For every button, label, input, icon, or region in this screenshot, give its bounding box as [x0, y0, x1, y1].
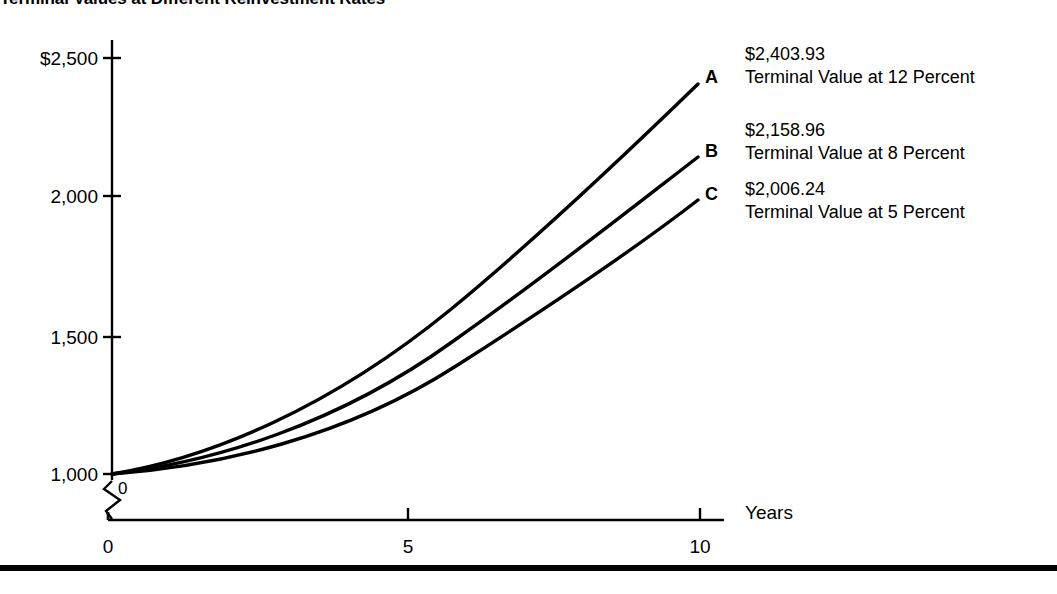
y-tick-label-1000: 1,000	[8, 465, 98, 484]
y-tick-label-2000: 2,000	[8, 187, 98, 206]
annotation-desc-a: Terminal Value at 12 Percent	[745, 66, 975, 89]
x-tick-label-10: 10	[670, 537, 730, 556]
plot-area	[0, 0, 1057, 594]
annotation-value-c: $2,006.24	[745, 178, 965, 201]
annotation-desc-b: Terminal Value at 8 Percent	[745, 142, 965, 165]
annotation-value-b: $2,158.96	[745, 119, 965, 142]
annotation-block-c: $2,006.24 Terminal Value at 5 Percent	[745, 178, 965, 224]
annotation-block-b: $2,158.96 Terminal Value at 8 Percent	[745, 119, 965, 165]
curve-c-5-percent	[112, 200, 698, 474]
y-tick-label-1500: 1,500	[8, 328, 98, 347]
x-tick-label-0: 0	[78, 537, 138, 556]
x-axis-title: Years	[745, 503, 793, 522]
chart-figure: Terminal Values at Different Reinvestmen…	[0, 0, 1057, 594]
bottom-divider-rule	[0, 565, 1057, 571]
origin-zero-marker: 0	[118, 480, 127, 497]
curve-b-8-percent	[112, 157, 698, 474]
curve-label-a: A	[705, 68, 718, 86]
curve-a-12-percent	[112, 84, 698, 474]
y-tick-label-2500: $2,500	[8, 49, 98, 68]
curve-label-c: C	[705, 185, 718, 203]
annotation-value-a: $2,403.93	[745, 43, 975, 66]
x-tick-label-5: 5	[378, 537, 438, 556]
annotation-desc-c: Terminal Value at 5 Percent	[745, 201, 965, 224]
curve-label-b: B	[705, 142, 718, 160]
annotation-block-a: $2,403.93 Terminal Value at 12 Percent	[745, 43, 975, 89]
